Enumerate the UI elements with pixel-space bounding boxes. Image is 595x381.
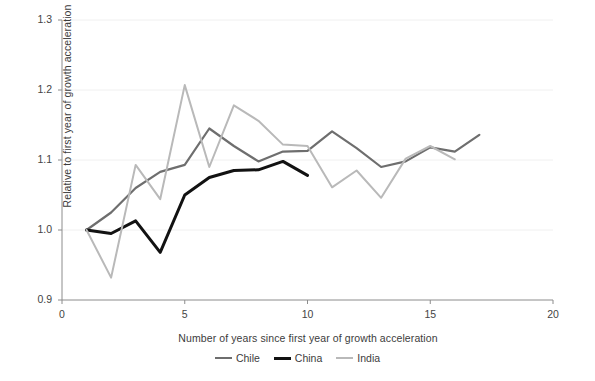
line-chart-svg: [0, 0, 595, 381]
x-axis-title: Number of years since first year of grow…: [62, 332, 554, 344]
x-tick-label: 15: [415, 308, 445, 320]
x-tick-label: 10: [293, 308, 323, 320]
legend-swatch-chile: [215, 357, 232, 359]
x-tick-label: 20: [538, 308, 568, 320]
legend-label: China: [295, 352, 322, 364]
x-tick-label: 0: [47, 308, 77, 320]
legend-label: Chile: [236, 352, 260, 364]
series-line-india: [87, 85, 455, 278]
tick-marks: [58, 20, 553, 304]
legend-swatch-india: [336, 357, 353, 359]
y-axis-title-holder: Relative to first year of growth acceler…: [14, 20, 28, 300]
source-note: [18, 368, 578, 380]
x-tick-label: 5: [170, 308, 200, 320]
legend-label: India: [357, 352, 380, 364]
legend-item-india: India: [336, 352, 380, 364]
data-series: [87, 85, 480, 278]
gridlines: [62, 20, 553, 230]
figure-root: 0.91.01.11.21.3 05101520 Relative to fir…: [0, 0, 595, 381]
legend-swatch-china: [274, 357, 291, 360]
chart-canvas: 0.91.01.11.21.3 05101520 Relative to fir…: [0, 0, 595, 381]
chart-legend: ChileChinaIndia: [0, 352, 595, 364]
legend-item-chile: Chile: [215, 352, 260, 364]
y-axis-title: Relative to first year of growth acceler…: [61, 0, 73, 251]
legend-item-china: China: [274, 352, 322, 364]
